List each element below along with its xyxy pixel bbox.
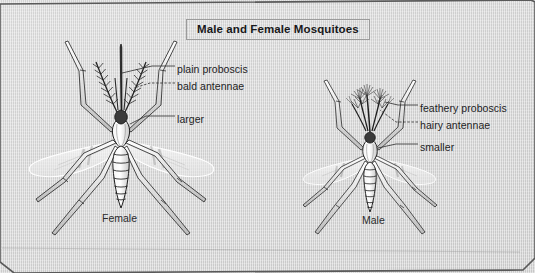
label-hairy-antennae: hairy antennae	[420, 119, 490, 131]
label-larger: larger	[177, 113, 204, 125]
male-mosquito	[303, 80, 437, 234]
figure-title: Male and Female Mosquitoes	[186, 19, 370, 40]
mosquito-diagram-page: Male and Female Mosquitoes plain probosc…	[0, 0, 535, 273]
female-palp-right	[124, 78, 127, 110]
male-head	[365, 132, 376, 143]
plate-border	[0, 0, 535, 273]
label-bald-antennae: bald antennae	[177, 80, 244, 92]
label-feathery-proboscis: feathery proboscis	[420, 102, 507, 114]
male-abdomen	[364, 162, 377, 212]
label-smaller: smaller	[420, 141, 454, 153]
female-palp-left	[115, 78, 118, 110]
male-feathery-proboscis	[352, 96, 388, 132]
leader-plain-proboscis	[122, 66, 175, 73]
male-hairy-antennae	[346, 84, 394, 108]
caption-female: Female	[102, 212, 137, 224]
caption-male: Male	[362, 214, 385, 226]
female-plain-proboscis	[120, 44, 122, 110]
label-plain-proboscis: plain proboscis	[177, 63, 248, 75]
female-abdomen	[113, 146, 129, 208]
mosquito-illustrations	[0, 0, 535, 273]
